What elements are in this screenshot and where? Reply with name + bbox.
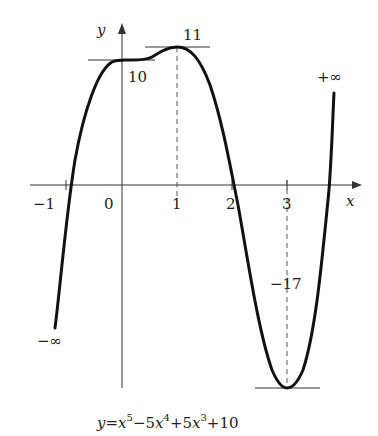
tick-label-1: 1 bbox=[172, 195, 182, 213]
x-axis-label: x bbox=[346, 192, 355, 210]
tick-label-2: 2 bbox=[226, 195, 236, 213]
value-label-m17: −17 bbox=[270, 275, 302, 293]
tick-label-m1: −1 bbox=[33, 195, 55, 213]
tick-label-3: 3 bbox=[282, 195, 292, 213]
y-axis-arrow-icon bbox=[118, 23, 126, 34]
tick-label-0: 0 bbox=[104, 195, 114, 213]
curve bbox=[55, 47, 334, 388]
y-axis-label: y bbox=[96, 21, 106, 39]
function-graph: y x −1 0 1 2 3 10 11 −17 +∞ −∞ y=x5−5x4+… bbox=[0, 0, 378, 436]
equation-caption: y=x5−5x4+5x3+10 bbox=[96, 412, 239, 432]
neg-inf-label: −∞ bbox=[37, 332, 62, 350]
value-label-10: 10 bbox=[128, 68, 147, 86]
x-axis-arrow-icon bbox=[352, 181, 362, 189]
pos-inf-label: +∞ bbox=[317, 68, 342, 86]
value-label-11: 11 bbox=[183, 26, 202, 44]
